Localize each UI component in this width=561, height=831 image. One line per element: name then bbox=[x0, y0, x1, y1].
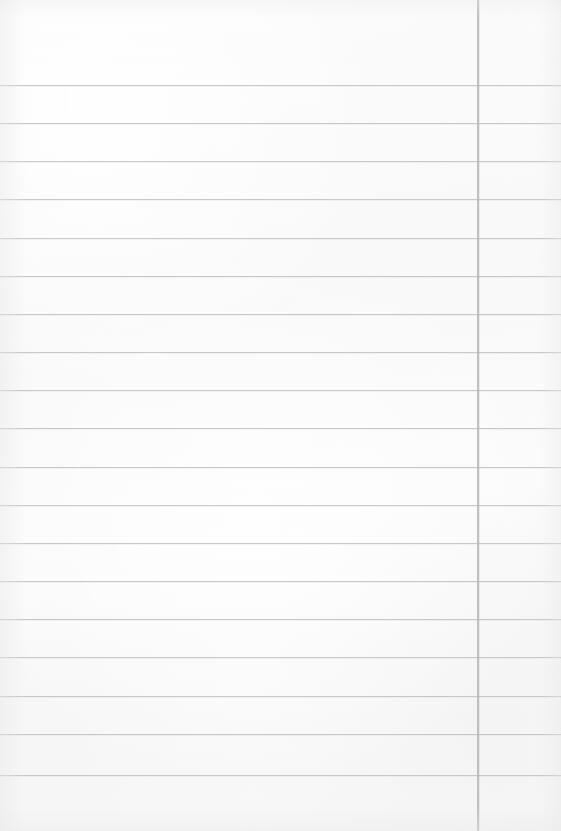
text-line bbox=[6, 402, 471, 428]
margin-line bbox=[477, 0, 479, 831]
notebook-page bbox=[0, 0, 561, 831]
text-line bbox=[6, 97, 471, 123]
text-line bbox=[6, 250, 471, 276]
text-line bbox=[6, 59, 471, 85]
text-line bbox=[6, 708, 471, 734]
text-line bbox=[6, 593, 471, 619]
text-line bbox=[6, 212, 471, 238]
text-line bbox=[6, 135, 471, 161]
text-line bbox=[6, 749, 471, 775]
text-line bbox=[6, 173, 471, 199]
text-line bbox=[6, 364, 471, 390]
text-line bbox=[6, 631, 471, 657]
text-line bbox=[6, 479, 471, 505]
text-line bbox=[6, 326, 471, 352]
text-line bbox=[6, 288, 471, 314]
text-line bbox=[6, 670, 471, 696]
text-line bbox=[6, 441, 471, 467]
text-line bbox=[6, 555, 471, 581]
text-line bbox=[6, 517, 471, 543]
